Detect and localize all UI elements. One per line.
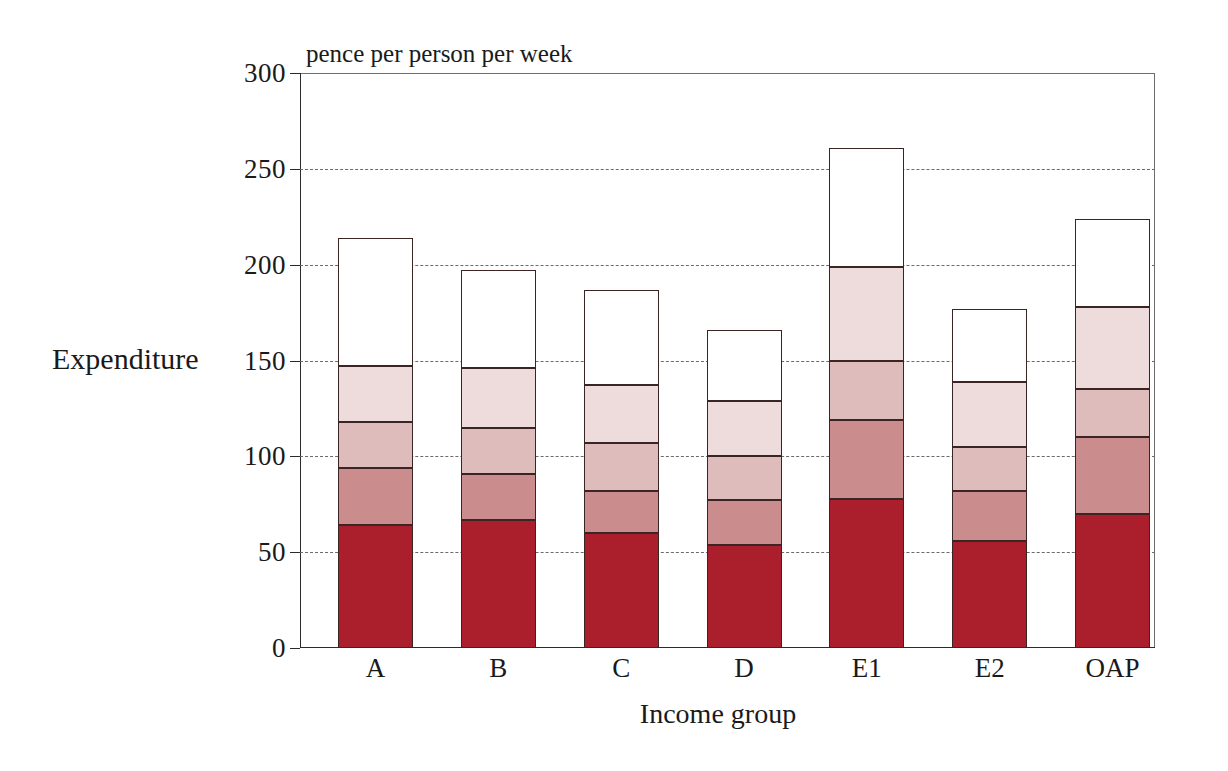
bar-segment[interactable] [952,382,1027,447]
y-tick-label: 150 [244,347,286,374]
x-axis-title-text: Income group [640,698,796,729]
bar-segment[interactable] [461,270,536,368]
bar-segment[interactable] [338,468,413,526]
x-tick-label-c: C [584,655,659,682]
bar-segment[interactable] [584,443,659,491]
bar-segment[interactable] [707,330,782,401]
y-tick-label: 300 [244,60,286,87]
y-tick-label: 200 [244,251,286,278]
bar-segment[interactable] [584,385,659,443]
y-tick-mark [290,265,300,266]
y-tick-mark [290,456,300,457]
bar-segment[interactable] [584,491,659,533]
x-tick-label-b: B [461,655,536,682]
bar-e1[interactable]: E1 [829,148,904,648]
bar-segment[interactable] [338,525,413,648]
bar-segment[interactable] [707,456,782,500]
bar-c[interactable]: C [584,290,659,648]
bar-segment[interactable] [584,290,659,386]
bar-segment[interactable] [952,309,1027,382]
y-tick-mark [290,361,300,362]
x-tick-label-oap: OAP [1075,655,1150,682]
y-tick-mark [290,648,300,649]
bar-oap[interactable]: OAP [1075,219,1150,648]
bar-segment[interactable] [338,422,413,468]
bar-segment[interactable] [1075,437,1150,514]
bar-segment[interactable] [829,420,904,499]
stacked-bar-chart: pence per person per week Expenditure In… [0,0,1228,771]
plot-area: 050100150200250300 ABCDE1E2OAP [300,73,1155,648]
bar-segment[interactable] [1075,219,1150,307]
bar-segment[interactable] [829,148,904,267]
x-tick-label-d: D [707,655,782,682]
chart-unit-title: pence per person per week [306,41,573,66]
bar-segment[interactable] [461,474,536,520]
bar-d[interactable]: D [707,330,782,648]
y-tick-label: 100 [244,443,286,470]
bar-segment[interactable] [707,545,782,649]
x-tick-label-a: A [338,655,413,682]
y-tick-label: 50 [258,539,286,566]
bar-e2[interactable]: E2 [952,309,1027,648]
bar-segment[interactable] [338,238,413,366]
bar-segment[interactable] [1075,514,1150,648]
bar-segment[interactable] [707,401,782,457]
bar-b[interactable]: B [461,270,536,648]
gridline [300,169,1155,170]
bar-segment[interactable] [461,428,536,474]
y-tick-label: 0 [272,635,286,662]
bar-segment[interactable] [584,533,659,648]
gridline [300,265,1155,266]
bar-segment[interactable] [829,361,904,420]
bar-segment[interactable] [707,500,782,544]
y-tick-mark [290,552,300,553]
x-tick-label-e1: E1 [829,655,904,682]
y-tick-mark [290,73,300,74]
y-tick-label: 250 [244,155,286,182]
bar-segment[interactable] [461,368,536,427]
bar-segment[interactable] [338,366,413,422]
x-tick-label-e2: E2 [952,655,1027,682]
bar-segment[interactable] [829,499,904,649]
x-axis-title: Income group [0,700,1228,728]
plot-top-border [300,73,1155,74]
bar-segment[interactable] [952,447,1027,491]
bar-segment[interactable] [1075,307,1150,389]
y-tick-mark [290,169,300,170]
bar-segment[interactable] [952,541,1027,648]
bar-segment[interactable] [829,267,904,361]
bar-segment[interactable] [1075,389,1150,437]
bar-segment[interactable] [952,491,1027,541]
bar-a[interactable]: A [338,238,413,648]
y-axis-title: Expenditure [52,344,199,374]
bar-segment[interactable] [461,520,536,648]
